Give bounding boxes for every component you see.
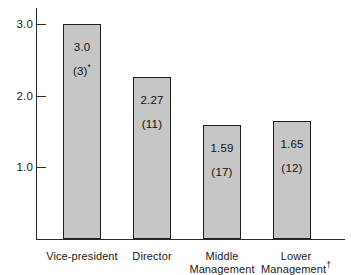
y-axis-tick-3 — [37, 24, 46, 25]
x-axis-category-lower-management: Lower Management† — [251, 250, 341, 275]
y-axis-line — [36, 8, 37, 240]
y-axis-tick-1 — [37, 167, 46, 168]
y-axis-tick-2 — [37, 96, 46, 97]
bar-count-label: (11) — [134, 118, 170, 130]
bar-count-label: (17) — [204, 166, 240, 178]
category-label-line-2: Management† — [251, 263, 341, 275]
bar-value-label: 3.0 — [64, 41, 100, 53]
y-axis-label-2-text: 2.0 — [3, 90, 33, 102]
y-axis-label-3-text: 3.0 — [3, 18, 33, 30]
dagger-icon: † — [326, 260, 331, 270]
x-axis-line — [36, 239, 345, 240]
bar-lower-management[interactable]: 1.65 (12) — [273, 121, 311, 239]
category-label-line-2-text: Management — [261, 263, 326, 275]
y-axis-label-1-text: 1.0 — [3, 161, 33, 173]
bar-value-label: 2.27 — [134, 94, 170, 106]
y-axis-label-1: 1.0 — [0, 161, 33, 173]
bar-middle-management[interactable]: 1.59 (17) — [203, 125, 241, 239]
bar-count-text: (3) — [73, 65, 88, 77]
bar-count-label: (12) — [274, 162, 310, 174]
bar-director[interactable]: 2.27 (11) — [133, 77, 171, 239]
bar-value-label: 1.65 — [274, 138, 310, 150]
y-axis-label-2: 2.0 — [0, 90, 33, 102]
asterisk-icon: * — [88, 62, 92, 72]
y-axis-label-3: 3.0 — [0, 18, 33, 30]
bar-chart-figure: 3.0 2.0 1.0 3.0 (3)* 2.27 (11) 1.59 (17)… — [0, 0, 351, 275]
bar-value-label: 1.59 — [204, 142, 240, 154]
bar-count-label: (3)* — [64, 65, 100, 77]
bar-vice-president[interactable]: 3.0 (3)* — [63, 24, 101, 239]
